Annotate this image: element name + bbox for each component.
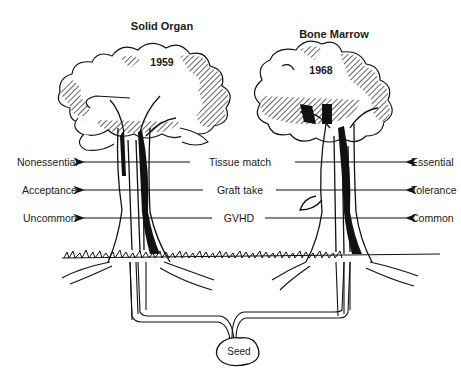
- label-essential: Essential: [411, 156, 454, 168]
- label-nonessential: Nonessential: [17, 156, 78, 168]
- bone-marrow-roots: [272, 262, 418, 316]
- solid-organ-title: Solid Organ: [131, 20, 193, 32]
- label-uncommon: Uncommon: [23, 212, 77, 224]
- label-common: Common: [411, 212, 454, 224]
- bone-marrow-year: 1968: [308, 64, 333, 76]
- transplant-tree-diagram: Solid Organ Bone Marrow 1959 1968 Noness…: [0, 0, 461, 381]
- ground-grass: [62, 250, 440, 258]
- solid-organ-year: 1959: [149, 56, 174, 68]
- label-tissue-match: Tissue match: [206, 156, 274, 168]
- bone-marrow-title: Bone Marrow: [299, 28, 369, 40]
- label-tolerance: Tolerance: [411, 184, 457, 196]
- root-connector: [130, 262, 350, 340]
- seed-label: Seed: [227, 346, 250, 358]
- label-graft-take: Graft take: [214, 184, 266, 196]
- label-acceptance: Acceptance: [22, 184, 77, 196]
- label-gvhd: GVHD: [221, 212, 257, 224]
